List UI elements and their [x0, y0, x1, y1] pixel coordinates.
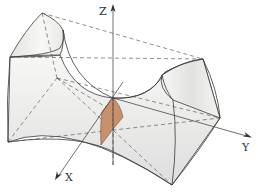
saddle-surface-figure: Z Y X — [0, 0, 258, 195]
x-axis-label: X — [65, 171, 73, 184]
y-axis-arrow-icon — [243, 132, 252, 138]
z-axis-label: Z — [99, 5, 107, 18]
figure-caption-cutoff — [4, 189, 254, 195]
y-axis-label: Y — [241, 141, 250, 154]
